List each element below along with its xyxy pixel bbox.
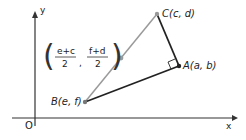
y-axis-arrow-icon xyxy=(32,11,38,18)
point-a xyxy=(177,64,181,68)
origin-label: O xyxy=(25,121,33,131)
side-ca xyxy=(157,14,179,66)
point-c xyxy=(155,12,159,16)
midpoint-den-2: 2 xyxy=(95,59,101,69)
right-paren: ) xyxy=(111,38,123,73)
midpoint-num-2: f+d xyxy=(89,46,105,56)
midpoint-comma: , xyxy=(79,58,82,68)
midpoint-num-1: e+c xyxy=(57,46,75,56)
point-b-label: B(e, f) xyxy=(51,97,82,107)
point-a-label: A(a, b) xyxy=(183,61,216,71)
x-axis-label: x xyxy=(226,122,231,131)
x-axis-arrow-icon xyxy=(232,115,238,121)
point-c-label: C(c, d) xyxy=(162,9,195,19)
midpoint-den-1: 2 xyxy=(62,59,68,69)
point-b xyxy=(83,100,87,104)
y-axis-label: y xyxy=(40,6,45,15)
left-paren: ( xyxy=(43,38,55,73)
